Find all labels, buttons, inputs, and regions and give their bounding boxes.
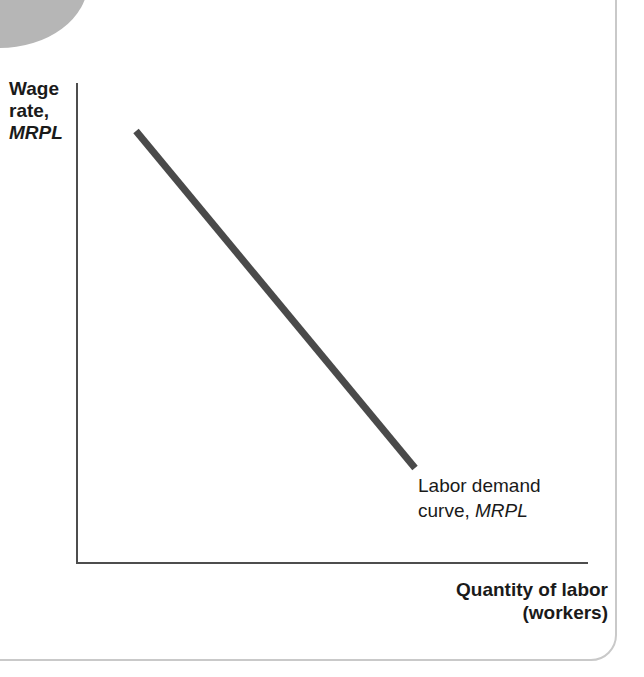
y-axis-label-mrpl: MRPL	[9, 122, 71, 144]
curve-label-line2-prefix: curve,	[418, 500, 470, 521]
x-axis-label-line1: Quantity of labor	[456, 579, 608, 600]
y-axis-label: Wage rate, MRPL	[9, 78, 71, 144]
x-axis-label-line2: (workers)	[330, 601, 608, 624]
y-axis-label-line1: Wage	[9, 78, 59, 99]
figure-root: Wage rate, MRPL Labor demand curve, MRPL…	[0, 0, 644, 677]
x-axis-line	[76, 562, 588, 564]
x-axis-label: Quantity of labor (workers)	[330, 578, 608, 624]
curve-label-mrpl: MRPL	[475, 500, 528, 521]
y-axis-line	[76, 83, 78, 564]
curve-annotation-label: Labor demand curve, MRPL	[418, 474, 608, 523]
y-axis-label-line2: rate,	[9, 100, 49, 121]
labor-demand-curve-line	[136, 131, 415, 468]
curve-label-line1: Labor demand	[418, 475, 541, 496]
labor-demand-curve	[0, 0, 644, 677]
plot-area: Wage rate, MRPL Labor demand curve, MRPL…	[0, 0, 644, 677]
